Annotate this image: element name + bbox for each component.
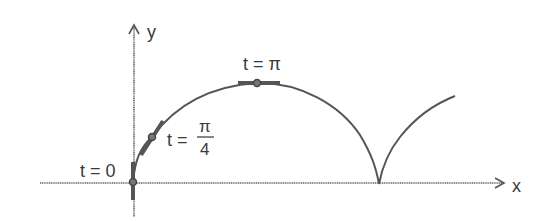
cycloid-arch-2 <box>379 96 455 184</box>
x-axis-label: x <box>512 176 521 196</box>
label-t-pi: t = π <box>243 54 281 74</box>
label-t-pi-over-4: t = π 4 <box>167 117 214 159</box>
label-t-pi-over-4-numerator: π <box>199 117 211 136</box>
point-t-pi <box>254 80 261 87</box>
label-t0: t = 0 <box>80 161 116 181</box>
point-t0 <box>130 179 137 186</box>
y-axis-label: y <box>147 22 156 42</box>
cycloid-diagram: x y t = 0 t = π 4 t = π <box>0 0 545 221</box>
label-t-pi-over-4-denominator: 4 <box>200 140 209 159</box>
point-t-pi-over-4 <box>149 134 156 141</box>
y-axis-arrow-icon <box>129 25 139 34</box>
label-t-pi-over-4-prefix: t = <box>167 130 188 150</box>
